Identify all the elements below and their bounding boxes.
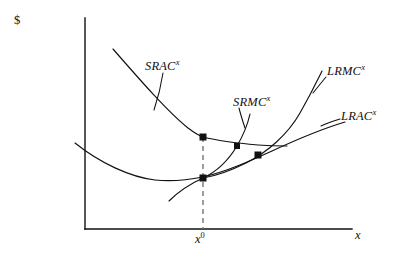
srac-leader-line [154,73,163,110]
curve-lrac [75,122,345,181]
curve-label-srac: SRACx [145,57,180,74]
srmc-leader-line [239,108,245,128]
cost-curve-diagram: SRACx SRMCx LRMCx LRACx $ x x0 [0,0,405,264]
x-axis-label: x [355,228,361,243]
x-tick-label-x0: x0 [195,230,205,247]
y-axis-label: $ [14,13,20,28]
diagram-canvas [0,0,405,264]
curve-label-lrmc: LRMCx [327,62,365,79]
curve-lrmc [203,71,322,178]
intersection-point-lrmc-lrac [255,152,262,159]
tangency-point-srac-lrac [200,134,207,141]
curve-label-lrac: LRACx [341,107,376,124]
intersection-point-srmc-lrmc [200,175,207,182]
curve-label-srmc: SRMCx [233,93,270,110]
curve-srmc [169,114,250,201]
intersection-point-srmc-srac [234,143,240,149]
